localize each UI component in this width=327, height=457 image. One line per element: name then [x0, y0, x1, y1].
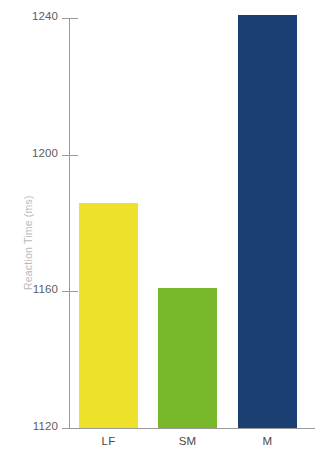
y-axis-tick-label: 1200	[0, 147, 58, 159]
y-axis-tick-label: 1240	[0, 10, 58, 22]
y-axis-title: Reaction Time (ms)	[22, 140, 36, 290]
y-axis-tick-label: 1120	[0, 420, 58, 432]
y-axis-tick	[62, 18, 78, 19]
y-axis-tick	[62, 428, 78, 429]
y-axis-tick-label: 1160	[0, 283, 58, 295]
x-axis-label-m: M	[238, 435, 297, 447]
x-axis-label-lf: LF	[79, 435, 138, 447]
y-axis-tick	[62, 291, 78, 292]
x-axis-label-sm: SM	[158, 435, 217, 447]
bar-lf	[79, 203, 138, 429]
plot-area	[0, 0, 327, 457]
bar-sm	[158, 288, 217, 428]
y-axis-tick	[62, 155, 78, 156]
x-axis-line	[62, 428, 315, 429]
bar-m	[238, 15, 297, 428]
bar-chart: Reaction Time (ms) 1240120011601120 LFSM…	[0, 0, 327, 457]
y-axis-line	[69, 18, 70, 429]
